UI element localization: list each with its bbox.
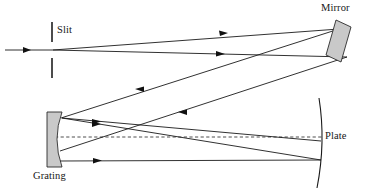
arrowhead-mirror-to-grating-lower xyxy=(178,110,187,116)
arrowhead-grating-to-plate-c xyxy=(93,158,102,164)
optics-diagram-canvas xyxy=(0,0,372,191)
grating-body xyxy=(47,112,62,167)
mirror-body xyxy=(326,20,351,62)
arrowhead-slit-to-mirror-lower xyxy=(216,51,225,57)
arrowhead-mirror-to-grating-upper xyxy=(135,87,144,93)
optics-diagram-figure: Mirror Slit Plate Grating xyxy=(0,0,372,191)
plate-curve xyxy=(317,98,322,188)
arrowhead-slit-to-mirror-upper xyxy=(219,31,228,37)
label-grating: Grating xyxy=(33,170,66,181)
ray-slit-to-mirror-lower xyxy=(53,50,347,57)
ray-grating-to-plate-a xyxy=(62,118,321,160)
label-mirror: Mirror xyxy=(321,2,350,13)
label-plate: Plate xyxy=(325,130,347,141)
ray-slit-to-mirror-upper xyxy=(53,29,339,50)
label-slit: Slit xyxy=(57,24,72,35)
arrowhead-incoming-beam xyxy=(23,47,31,53)
